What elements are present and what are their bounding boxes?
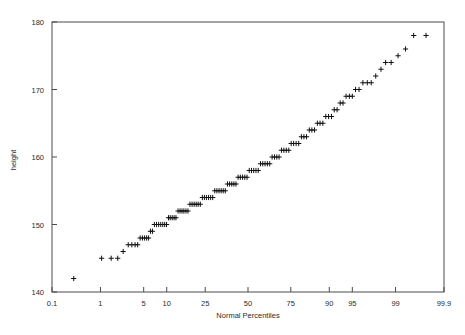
x-tick-label: 99.9 — [437, 299, 452, 308]
x-tick-label: 50 — [244, 299, 252, 308]
x-tick-label: 10 — [163, 299, 171, 308]
x-tick-label: 5 — [142, 299, 146, 308]
y-tick-label: 150 — [31, 221, 44, 230]
y-tick-label: 180 — [31, 18, 44, 27]
y-tick-label: 140 — [31, 288, 44, 297]
x-axis-title: Normal Percentiles — [216, 311, 280, 320]
x-tick-label: 0.1 — [47, 299, 57, 308]
figure-background — [0, 0, 465, 335]
x-tick-label: 99 — [391, 299, 399, 308]
x-tick-label: 95 — [348, 299, 356, 308]
x-tick-label: 90 — [325, 299, 333, 308]
normal-probability-plot-figure: 0.1151025507590959999.9 140150160170180 … — [0, 0, 465, 335]
plot-canvas: 0.1151025507590959999.9 140150160170180 … — [0, 0, 465, 335]
y-axis-title: height — [9, 149, 18, 170]
y-tick-label: 170 — [31, 86, 44, 95]
x-tick-label: 25 — [201, 299, 209, 308]
y-tick-label: 160 — [31, 153, 44, 162]
x-tick-label: 1 — [98, 299, 102, 308]
x-tick-label: 75 — [287, 299, 295, 308]
